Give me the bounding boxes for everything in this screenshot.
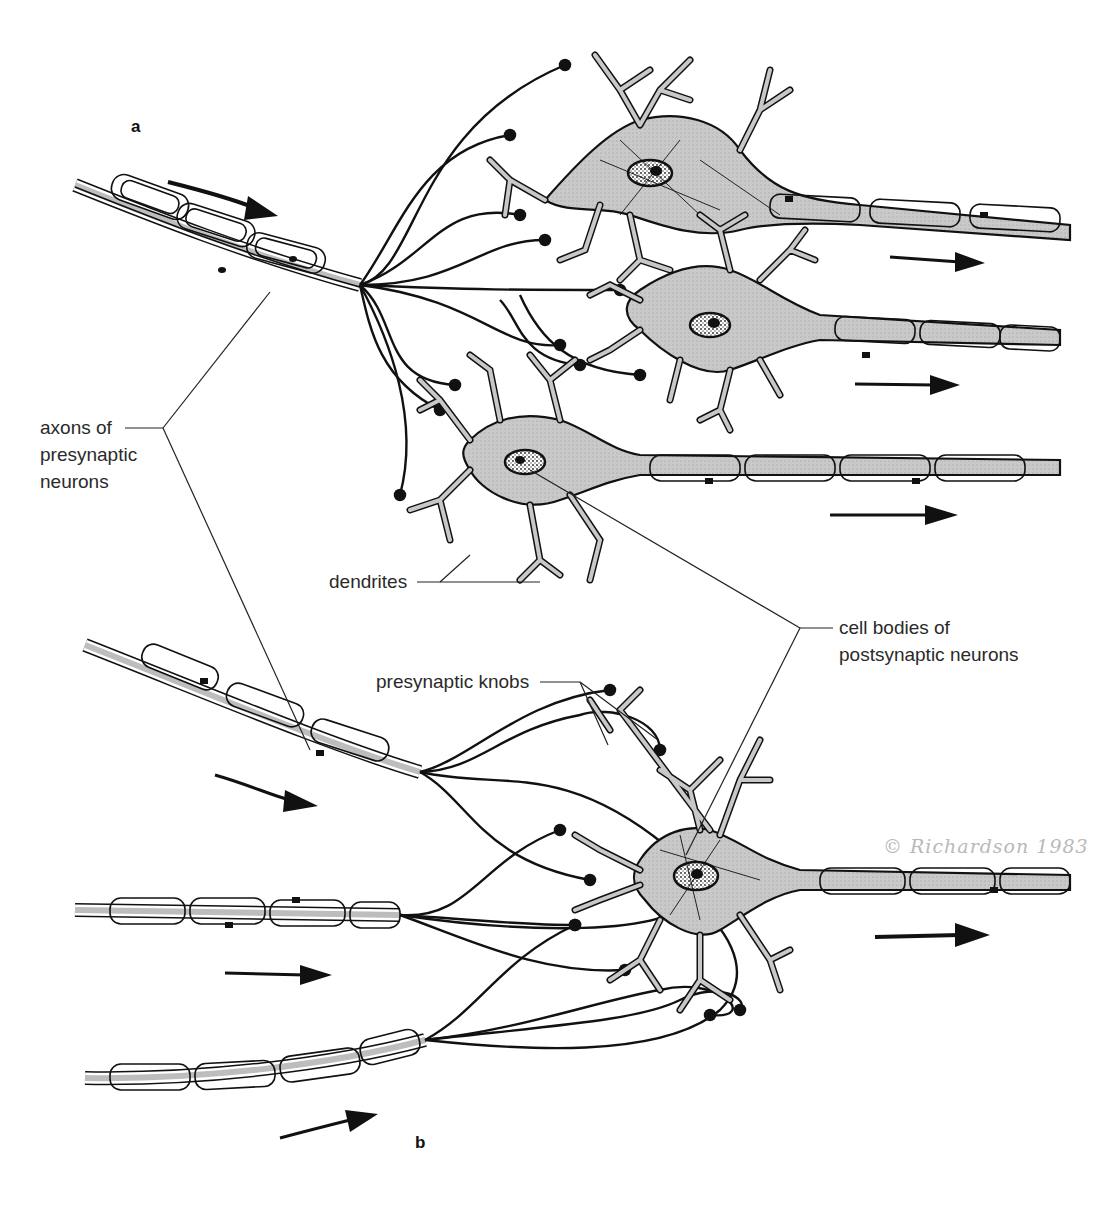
arrow-icon: [875, 923, 990, 947]
label-cell-bodies: cell bodies of postsynaptic neurons: [839, 614, 1019, 668]
label-axons-of-presynaptic-neurons: axons of presynaptic neurons: [40, 414, 137, 495]
panel-label-b: b: [415, 1133, 425, 1153]
presynaptic-axon-b1: [85, 641, 420, 772]
presynaptic-axon-a: [75, 171, 360, 287]
panel-label-a: a: [131, 117, 140, 137]
copyright-signature: © Richardson 1983: [883, 835, 1089, 857]
postsynaptic-neuron-1: [490, 55, 1070, 280]
diagram-canvas: [0, 0, 1108, 1216]
postsynaptic-neuron-3: [410, 355, 1060, 580]
arrow-icon: [855, 375, 960, 395]
arrow-icon: [280, 1110, 378, 1138]
arrow-icon: [890, 252, 985, 272]
label-dendrites: dendrites: [329, 568, 407, 595]
arrow-icon: [215, 775, 318, 812]
presynaptic-axon-b3: [85, 1027, 425, 1090]
postsynaptic-neuron-2: [590, 215, 1060, 430]
label-presynaptic-knobs: presynaptic knobs: [376, 668, 529, 695]
neuron-diagram: a b axons of presynaptic neurons dendrit…: [0, 0, 1108, 1216]
arrow-icon: [830, 505, 958, 525]
arrow-icon: [225, 965, 332, 985]
presynaptic-axon-b2: [75, 897, 400, 928]
